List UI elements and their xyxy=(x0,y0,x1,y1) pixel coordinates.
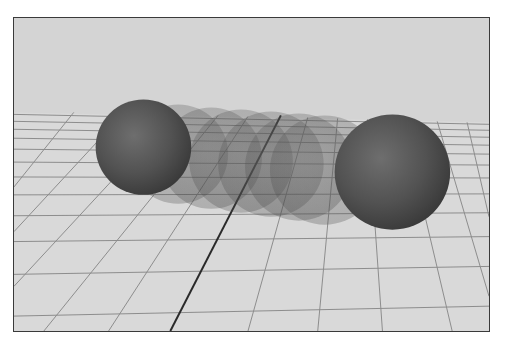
3d-viewport[interactable] xyxy=(13,17,490,332)
sphere-end[interactable] xyxy=(335,114,451,229)
scene-canvas[interactable] xyxy=(14,18,489,331)
sphere-start[interactable] xyxy=(96,99,192,194)
